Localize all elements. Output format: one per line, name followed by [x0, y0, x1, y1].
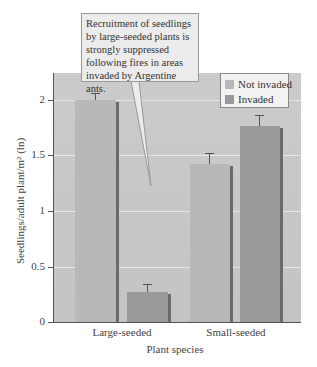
callout-annotation: Recruitment of seedlings by large-seeded… — [81, 13, 199, 82]
